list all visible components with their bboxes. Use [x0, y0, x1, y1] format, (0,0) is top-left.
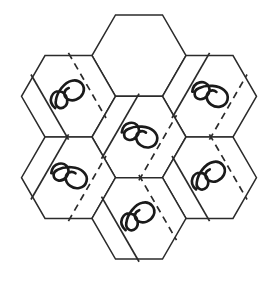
hexagon-rosette-figure: Hexagonal rosette net diagram Seven flat… — [0, 0, 278, 284]
